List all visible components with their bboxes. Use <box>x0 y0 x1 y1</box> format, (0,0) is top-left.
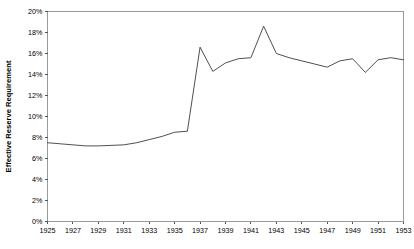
series-line-0 <box>48 26 404 146</box>
x-tick-label: 1945 <box>294 226 310 235</box>
y-tick-label: 16% <box>28 49 43 58</box>
y-tick-label: 12% <box>28 91 43 100</box>
y-axis-title: Effective Reserve Requirement <box>4 60 13 172</box>
x-tick-label: 1943 <box>268 226 284 235</box>
x-tick-label: 1935 <box>167 226 183 235</box>
x-tick-label: 1941 <box>243 226 259 235</box>
x-tick-label: 1951 <box>370 226 386 235</box>
y-tick-label: 0% <box>32 217 43 226</box>
plot-border <box>48 12 404 222</box>
line-chart: 0%2%4%6%8%10%12%14%16%18%20% 19251927192… <box>0 0 414 249</box>
y-tick-label: 2% <box>32 196 43 205</box>
x-axis-ticks: 1925192719291931193319351937193919411943… <box>40 222 412 236</box>
x-tick-label: 1933 <box>141 226 157 235</box>
chart-container: 0%2%4%6%8%10%12%14%16%18%20% 19251927192… <box>0 0 414 249</box>
x-tick-label: 1931 <box>116 226 132 235</box>
y-tick-label: 10% <box>28 112 43 121</box>
y-axis-ticks: 0%2%4%6%8%10%12%14%16%18%20% <box>28 7 47 226</box>
y-tick-label: 18% <box>28 28 43 37</box>
y-tick-label: 6% <box>32 154 43 163</box>
x-tick-label: 1949 <box>345 226 361 235</box>
y-tick-label: 20% <box>28 7 43 16</box>
x-tick-label: 1947 <box>319 226 335 235</box>
y-tick-label: 8% <box>32 133 43 142</box>
data-series-group <box>48 26 404 146</box>
x-tick-label: 1929 <box>90 226 106 235</box>
y-tick-label: 14% <box>28 70 43 79</box>
x-tick-label: 1927 <box>65 226 81 235</box>
plot-area <box>48 12 404 222</box>
y-tick-label: 4% <box>32 175 43 184</box>
x-tick-label: 1925 <box>40 226 56 235</box>
x-tick-label: 1937 <box>192 226 208 235</box>
x-tick-label: 1939 <box>218 226 234 235</box>
x-tick-label: 1953 <box>396 226 412 235</box>
